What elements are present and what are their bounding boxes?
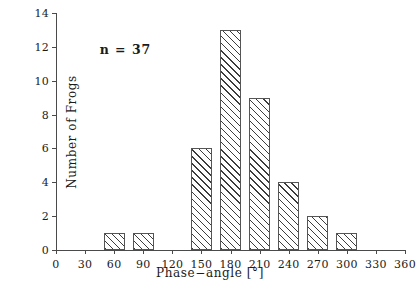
y-tick-mark: [52, 47, 56, 48]
sample-size-annotation: n = 37: [100, 42, 152, 57]
x-tick-label: 0: [52, 258, 59, 271]
x-tick-label: 360: [394, 258, 416, 271]
x-tick-mark: [405, 250, 406, 254]
y-axis-line: [56, 13, 57, 251]
x-tick-mark: [85, 250, 86, 254]
x-tick-mark: [56, 250, 57, 254]
y-tick-mark: [52, 115, 56, 116]
y-axis-title-wrapper: Number of Frogs: [74, 13, 75, 250]
histogram-bar: [133, 233, 154, 250]
x-tick-mark: [172, 250, 173, 254]
histogram-bar: [249, 98, 270, 250]
x-tick-mark: [289, 250, 290, 254]
y-axis-title: Number of Frogs: [65, 75, 79, 189]
x-tick-label: 300: [336, 258, 358, 271]
x-tick-mark: [376, 250, 377, 254]
x-tick-label: 240: [278, 258, 300, 271]
x-tick-label: 330: [365, 258, 387, 271]
x-tick-mark: [318, 250, 319, 254]
histogram-bar: [220, 30, 241, 250]
histogram-bar: [336, 233, 357, 250]
histogram-figure: 02468101214 0306090120150180210240270300…: [0, 0, 420, 302]
x-tick-mark: [114, 250, 115, 254]
y-tick-label: 12: [34, 40, 49, 53]
y-tick-label: 8: [42, 108, 49, 121]
y-tick-label: 6: [42, 142, 49, 155]
x-tick-mark: [201, 250, 202, 254]
x-tick-label: 90: [136, 258, 151, 271]
x-tick-label: 30: [78, 258, 93, 271]
histogram-bar: [307, 216, 328, 250]
y-tick-label: 4: [42, 176, 49, 189]
x-tick-mark: [231, 250, 232, 254]
x-tick-mark: [260, 250, 261, 254]
y-tick-label: 2: [42, 210, 49, 223]
histogram-bar: [191, 148, 212, 250]
y-tick-mark: [52, 216, 56, 217]
x-axis-title: Phase−angle [°]: [156, 266, 264, 280]
histogram-bar: [278, 182, 299, 250]
y-tick-label: 10: [34, 74, 49, 87]
y-tick-label: 14: [34, 7, 49, 20]
x-tick-mark: [347, 250, 348, 254]
y-tick-mark: [52, 182, 56, 183]
histogram-bar: [104, 233, 125, 250]
x-tick-mark: [143, 250, 144, 254]
y-tick-mark: [52, 13, 56, 14]
y-tick-mark: [52, 148, 56, 149]
y-tick-mark: [52, 81, 56, 82]
x-tick-label: 60: [107, 258, 122, 271]
x-tick-label: 270: [307, 258, 329, 271]
y-tick-label: 0: [42, 244, 49, 257]
